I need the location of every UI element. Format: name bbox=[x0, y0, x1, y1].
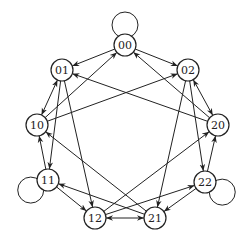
node-10: 10 bbox=[26, 114, 48, 136]
node-22: 22 bbox=[194, 171, 216, 193]
edge-01-10 bbox=[42, 80, 58, 115]
node-00: 00 bbox=[114, 34, 136, 56]
edge-22-21 bbox=[164, 188, 196, 211]
node-label: 02 bbox=[181, 64, 195, 77]
node-21: 21 bbox=[144, 207, 166, 229]
edge-22-20 bbox=[207, 136, 215, 172]
edge-00-02 bbox=[135, 49, 178, 66]
node-02: 02 bbox=[177, 59, 199, 81]
node-20: 20 bbox=[207, 114, 229, 136]
node-label: 21 bbox=[148, 212, 162, 225]
edge-11-10 bbox=[39, 136, 46, 169]
node-12: 12 bbox=[84, 207, 106, 229]
edge-11-12 bbox=[57, 187, 87, 211]
edge-20-00 bbox=[133, 52, 209, 118]
node-label: 10 bbox=[30, 119, 44, 132]
edge-01-12 bbox=[64, 81, 92, 208]
nodes-layer: 000102102011221221 bbox=[26, 34, 229, 229]
graph-diagram: 000102102011221221 bbox=[0, 0, 246, 241]
node-label: 20 bbox=[211, 119, 225, 132]
edge-21-10 bbox=[46, 132, 147, 211]
node-label: 12 bbox=[88, 212, 102, 225]
edge-02-21 bbox=[157, 81, 185, 208]
graph-canvas: 000102102011221221 bbox=[0, 0, 246, 241]
edge-12-20 bbox=[104, 132, 209, 212]
node-label: 01 bbox=[55, 64, 69, 77]
edge-00-01 bbox=[72, 49, 115, 66]
node-11: 11 bbox=[37, 169, 59, 191]
node-01: 01 bbox=[51, 59, 73, 81]
node-label: 00 bbox=[118, 39, 132, 52]
node-label: 11 bbox=[41, 174, 55, 187]
edge-02-20 bbox=[193, 80, 212, 116]
node-label: 22 bbox=[198, 176, 212, 189]
